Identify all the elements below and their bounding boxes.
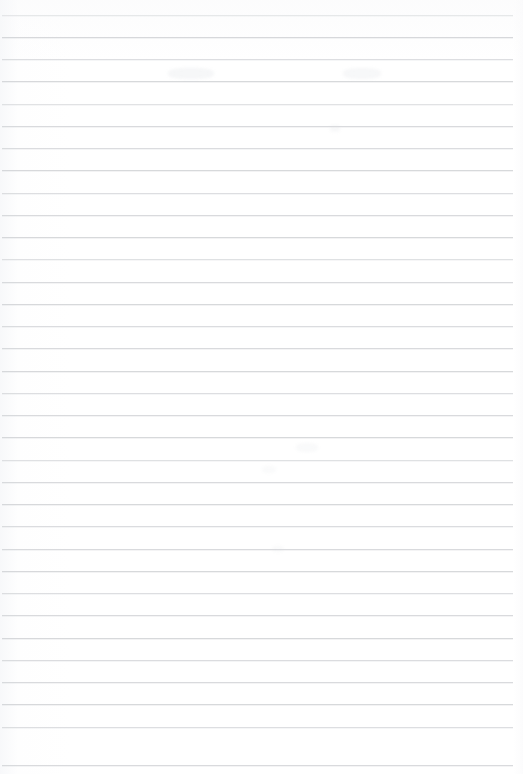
rule-line <box>2 282 513 283</box>
right-edge-seam <box>513 0 523 774</box>
rule-line <box>2 126 513 127</box>
paper-background-tone <box>0 0 523 774</box>
ruled-lines-layer <box>0 0 523 774</box>
rule-line <box>2 504 513 505</box>
rule-line <box>2 593 513 594</box>
rule-line <box>2 326 513 327</box>
rule-line <box>2 37 513 38</box>
rule-line <box>2 660 513 661</box>
rule-line <box>2 482 513 483</box>
rule-line <box>2 81 513 82</box>
rule-line <box>2 104 513 105</box>
rule-line <box>2 460 513 461</box>
rule-line <box>2 304 513 305</box>
rule-line <box>2 193 513 194</box>
scan-artifact-mark <box>168 68 214 79</box>
rule-line <box>2 704 513 705</box>
scan-artifact-mark <box>296 443 318 452</box>
scan-artifact-mark <box>272 546 284 552</box>
scan-artifact-mark <box>330 125 340 132</box>
rule-line <box>2 415 513 416</box>
scan-artifact-mark <box>343 68 381 79</box>
scanned-page <box>0 0 523 774</box>
rule-line <box>2 393 513 394</box>
rule-line <box>2 765 513 766</box>
rule-line <box>2 215 513 216</box>
rule-line <box>2 371 513 372</box>
scan-artifact-mark <box>262 466 276 473</box>
rule-line <box>2 237 513 238</box>
rule-line <box>2 549 513 550</box>
rule-line <box>2 348 513 349</box>
rule-line <box>2 59 513 60</box>
rule-line <box>2 682 513 683</box>
rule-line <box>2 148 513 149</box>
rule-line <box>2 615 513 616</box>
rule-line <box>2 15 513 16</box>
rule-line <box>2 571 513 572</box>
rule-line <box>2 727 513 728</box>
rule-line <box>2 170 513 171</box>
rule-line <box>2 526 513 527</box>
rule-line <box>2 259 513 260</box>
rule-line <box>2 638 513 639</box>
rule-line <box>2 437 513 438</box>
